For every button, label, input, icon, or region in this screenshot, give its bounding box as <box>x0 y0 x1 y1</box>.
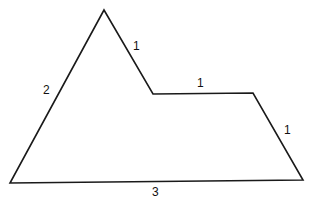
hexagon-outline <box>10 10 303 183</box>
polygon-figure <box>0 0 310 203</box>
edge-label-bottom: 3 <box>152 186 159 198</box>
edge-label-upper-right-slope: 1 <box>133 40 140 52</box>
edge-label-notch-top: 1 <box>197 77 204 89</box>
edge-label-right-slope: 1 <box>284 124 291 136</box>
edge-label-left-side: 2 <box>43 84 50 96</box>
